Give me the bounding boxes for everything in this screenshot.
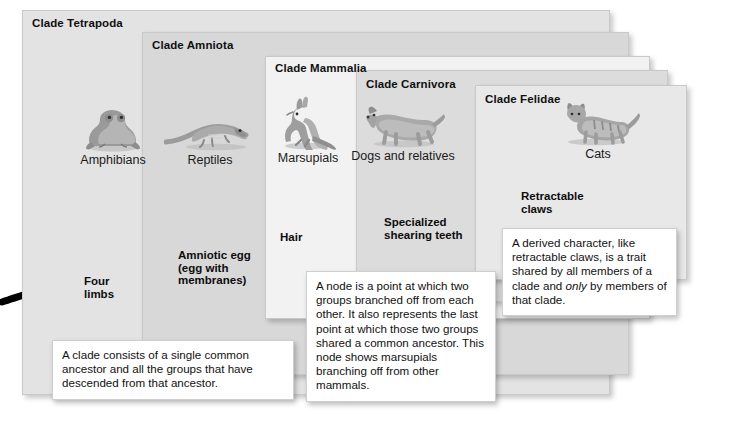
taxon-dogs: Dogs and relatives — [348, 96, 458, 163]
clade-title-tetrapoda: Clade Tetrapoda — [32, 17, 123, 29]
kangaroo-icon — [253, 98, 363, 150]
cladogram-diagram: Clade Tetrapoda Clade Amniota Clade Mamm… — [0, 0, 732, 423]
clade-title-amniota: Clade Amniota — [152, 39, 233, 51]
callout-node-definition: A node is a point at which two groups br… — [306, 271, 496, 402]
taxon-reptiles: Reptiles — [155, 100, 265, 167]
taxon-amphibians: Amphibians — [58, 100, 168, 167]
node-label-shearing-teeth: Specializedshearing teeth — [384, 216, 463, 241]
node-label-four-limbs: Fourlimbs — [84, 275, 114, 300]
clade-title-mammalia: Clade Mammalia — [275, 62, 367, 74]
lizard-icon — [155, 100, 265, 152]
taxon-label-amphibians: Amphibians — [58, 153, 168, 167]
taxon-cats: Cats — [543, 94, 653, 161]
clade-title-carnivora: Clade Carnivora — [366, 78, 456, 90]
taxon-marsupials: Marsupials — [253, 98, 363, 165]
dog-icon — [348, 96, 458, 148]
frog-icon — [58, 100, 168, 152]
cat-icon — [543, 94, 653, 146]
node-label-retractable-claws: Retractableclaws — [521, 190, 584, 215]
node-label-hair: Hair — [280, 231, 302, 244]
callout-clade-definition: A clade consists of a single common ance… — [52, 340, 294, 400]
taxon-label-cats: Cats — [543, 147, 653, 161]
taxon-label-reptiles: Reptiles — [155, 153, 265, 167]
callout-derived-character-definition: A derived character, like retractable cl… — [502, 228, 677, 316]
taxon-label-dogs: Dogs and relatives — [348, 149, 458, 163]
taxon-label-marsupials: Marsupials — [253, 151, 363, 165]
node-label-amniotic-egg: Amniotic egg(egg withmembranes) — [178, 249, 251, 287]
